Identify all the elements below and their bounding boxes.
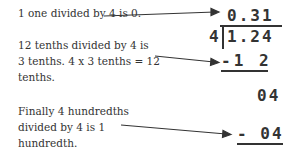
quotient: 0.31 [227, 6, 274, 25]
arrow-icon-step2 [155, 56, 219, 66]
divisor: 4 [209, 27, 221, 46]
underline-1 [221, 70, 268, 72]
subtract-1: -1 2 [221, 51, 272, 70]
underline-2 [237, 143, 283, 145]
dividend: 1.24 [227, 27, 274, 46]
remainder-1: 04 [257, 86, 280, 105]
arrow-icon-step1 [104, 9, 219, 17]
arrow-icon-step3 [121, 125, 231, 138]
division-bracket [222, 25, 224, 49]
subtract-2: - 04 [237, 124, 284, 143]
